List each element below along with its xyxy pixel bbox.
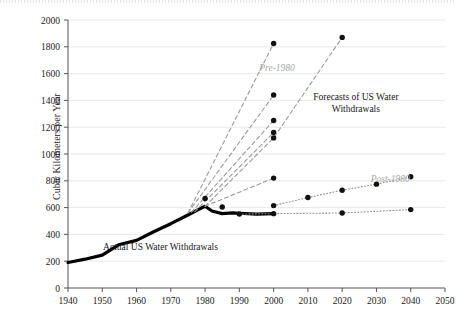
data-point-marker: [271, 41, 276, 46]
x-tick-label: 1960: [127, 296, 146, 306]
y-tick-label: 1600: [41, 69, 60, 79]
data-point-marker: [339, 35, 344, 40]
water-withdrawals-chart: 0200400600800100012001400160018002000 19…: [0, 0, 456, 316]
chart-annotation: Withdrawals: [332, 104, 380, 114]
y-tick-label: 2000: [41, 16, 60, 26]
data-point-marker: [305, 195, 310, 200]
chart-annotation: Post-1980: [370, 174, 410, 184]
data-point-marker: [339, 210, 344, 215]
x-tick-label: 1990: [230, 296, 249, 306]
series-line: [205, 178, 274, 206]
data-point-marker: [220, 204, 225, 209]
data-point-marker: [271, 92, 276, 97]
xtick-labels-group: 1940195019601970198019902000201020202030…: [59, 296, 455, 306]
data-point-marker: [271, 203, 276, 208]
annotations-group: Actual US Water WithdrawalsPre-1980Post-…: [103, 63, 410, 252]
chart-annotation: Actual US Water Withdrawals: [103, 242, 218, 252]
x-tick-label: 1940: [59, 296, 78, 306]
y-tick-label: 200: [46, 257, 61, 267]
x-tick-label: 2010: [298, 296, 317, 306]
y-tick-label: 400: [46, 230, 61, 240]
x-tick-label: 2050: [436, 296, 455, 306]
x-tick-label: 1980: [196, 296, 215, 306]
y-tick-label: 1800: [41, 42, 60, 52]
data-point-marker: [202, 196, 207, 201]
x-tick-label: 2000: [264, 296, 283, 306]
data-point-marker: [339, 187, 344, 192]
y-axis-title: Cubic Kilometers per Year: [51, 93, 62, 200]
x-tick-label: 2040: [401, 296, 420, 306]
x-tick-label: 1970: [161, 296, 180, 306]
data-point-marker: [271, 211, 276, 216]
data-point-marker: [271, 175, 276, 180]
y-tick-label: 600: [46, 203, 61, 213]
data-point-marker: [408, 207, 413, 212]
data-point-marker: [237, 211, 242, 216]
x-tick-label: 2020: [333, 296, 352, 306]
data-point-marker: [271, 135, 276, 140]
gridlines-group: [68, 20, 445, 261]
chart-annotation: Forecasts of US Water: [313, 92, 399, 102]
chart-annotation: Pre-1980: [258, 63, 295, 73]
data-point-marker: [271, 118, 276, 123]
series-line: [239, 210, 410, 214]
chart-canvas: 0200400600800100012001400160018002000 19…: [0, 0, 456, 316]
y-tick-label: 0: [55, 284, 60, 294]
x-tick-label: 2030: [367, 296, 386, 306]
series-group: [68, 35, 413, 263]
x-tick-label: 1950: [93, 296, 112, 306]
